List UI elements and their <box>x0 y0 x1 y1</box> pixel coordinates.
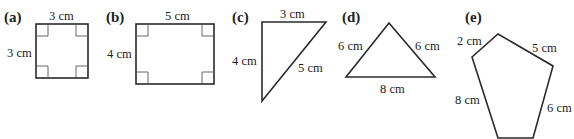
figure-d-right-measure: 6 cm <box>415 39 440 53</box>
figure-c: (c) 3 cm 4 cm 5 cm <box>232 7 326 101</box>
figure-a-label: (a) <box>4 9 22 26</box>
figure-c-hypotenuse-measure: 5 cm <box>298 61 323 75</box>
right-angle-marker <box>76 24 88 36</box>
figure-e-left-measure: 8 cm <box>455 93 480 107</box>
right-angle-marker <box>76 66 88 78</box>
figure-b-label: (b) <box>106 9 124 26</box>
square-shape <box>36 24 88 78</box>
figure-e-right-measure: 6 cm <box>547 101 572 115</box>
figure-e: (e) 2 cm 5 cm 8 cm 6 cm <box>455 9 572 138</box>
figure-a-left-measure: 3 cm <box>7 46 32 60</box>
right-angle-marker <box>136 24 148 36</box>
right-angle-marker <box>36 66 48 78</box>
right-angle-marker <box>136 72 148 84</box>
right-angle-marker <box>202 24 214 36</box>
figure-c-left-measure: 4 cm <box>232 54 257 68</box>
figure-d: (d) 6 cm 6 cm 8 cm <box>338 9 440 96</box>
figure-c-label: (c) <box>232 9 249 26</box>
figure-e-top-right-measure: 5 cm <box>532 41 557 55</box>
figure-b-left-measure: 4 cm <box>107 47 132 61</box>
figure-b: (b) 5 cm 4 cm <box>106 9 214 84</box>
right-angle-marker <box>202 72 214 84</box>
figure-b-top-measure: 5 cm <box>165 9 190 23</box>
figure-d-left-measure: 6 cm <box>338 39 363 53</box>
figure-d-label: (d) <box>342 9 360 26</box>
figure-e-label: (e) <box>465 9 482 26</box>
figure-a-top-measure: 3 cm <box>49 9 74 23</box>
figure-a: (a) 3 cm 3 cm <box>4 9 88 78</box>
shapes-diagram: (a) 3 cm 3 cm (b) 5 cm 4 cm (c) 3 cm 4 c… <box>0 0 574 139</box>
right-angle-marker <box>36 24 48 36</box>
figure-c-top-measure: 3 cm <box>280 7 305 21</box>
figure-e-top-left-measure: 2 cm <box>457 34 482 48</box>
figure-d-base-measure: 8 cm <box>380 82 405 96</box>
